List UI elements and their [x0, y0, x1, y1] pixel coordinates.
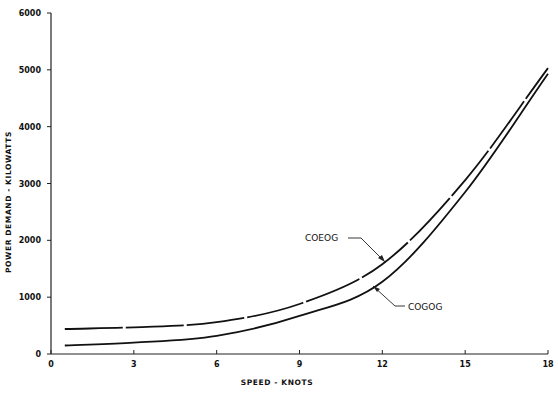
power-demand-chart: 0100020003000400050006000 0369121518 SPE… — [0, 0, 558, 394]
y-tick-label: 4000 — [19, 123, 42, 132]
y-tick-label: 0 — [35, 350, 41, 359]
x-tick-label: 3 — [131, 360, 137, 369]
series-line-cogog — [65, 74, 548, 346]
x-tick-label: 12 — [377, 360, 388, 369]
y-tick-label: 1000 — [19, 293, 42, 302]
x-tick-label: 6 — [214, 360, 220, 369]
cogog-annotation: COGOG — [373, 286, 442, 312]
x-ticks: 0369121518 — [48, 350, 554, 369]
y-tick-label: 3000 — [19, 180, 42, 189]
y-axis-title: POWER DEMAND - KILOWATTS — [4, 131, 13, 273]
y-tick-label: 6000 — [19, 9, 42, 18]
x-tick-label: 18 — [542, 360, 554, 369]
x-tick-label: 0 — [48, 360, 54, 369]
axes — [51, 13, 548, 354]
series-line-coeog — [65, 68, 548, 329]
y-tick-label: 2000 — [19, 236, 42, 245]
x-tick-label: 15 — [460, 360, 472, 369]
y-ticks: 0100020003000400050006000 — [19, 9, 51, 359]
coeog-label: COEOG — [305, 233, 338, 243]
series-group — [65, 68, 548, 345]
x-tick-label: 9 — [297, 360, 303, 369]
cogog-label: COGOG — [408, 302, 442, 312]
x-axis-title: SPEED - KNOTS — [241, 378, 314, 387]
coeog-annotation: COEOG — [305, 233, 385, 262]
y-tick-label: 5000 — [19, 66, 42, 75]
